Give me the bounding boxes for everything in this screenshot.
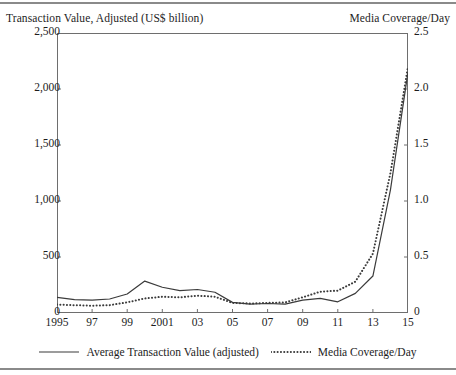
plot-area: 05001,0001,5002,0002,50000.51.01.52.02.5… <box>0 0 456 340</box>
legend-solid-line-icon <box>39 347 79 357</box>
x-axis-tick-label: 09 <box>297 316 309 328</box>
legend-label: Media Coverage/Day <box>318 346 417 358</box>
y-axis-right-tick-label: 2.0 <box>414 81 428 93</box>
legend-dotted-line-icon <box>271 347 311 357</box>
y-axis-left-tick-label: 1,000 <box>34 193 60 205</box>
data-series-line <box>57 72 408 304</box>
y-axis-left-tick-label: 2,000 <box>34 81 60 93</box>
bottom-divider-rule <box>0 368 456 370</box>
y-axis-left-tick-label: 1,500 <box>34 137 60 149</box>
chart-figure: Transaction Value, Adjusted (US$ billion… <box>0 0 456 375</box>
x-axis-tick-label: 97 <box>86 316 98 328</box>
data-series-line <box>57 67 408 306</box>
x-axis-tick-label: 07 <box>262 316 274 328</box>
x-axis-tick-label: 99 <box>121 316 133 328</box>
x-axis-tick-label: 05 <box>227 316 239 328</box>
x-axis-tick-label: 1995 <box>46 316 69 328</box>
x-axis-tick-label: 15 <box>402 316 414 328</box>
y-axis-right-tick-label: 1.0 <box>414 193 428 205</box>
chart-canvas <box>57 33 408 313</box>
legend-item: Media Coverage/Day <box>271 346 417 358</box>
x-axis-tick-label: 13 <box>367 316 379 328</box>
y-axis-right-tick-label: 1.5 <box>414 137 428 149</box>
y-axis-right-tick-label: 0 <box>414 305 420 317</box>
y-axis-right-tick-label: 0.5 <box>414 249 428 261</box>
y-axis-right-tick-label: 2.5 <box>414 25 428 37</box>
y-axis-left-tick-label: 500 <box>43 249 60 261</box>
y-axis-left-tick-label: 2,500 <box>34 25 60 37</box>
x-axis-tick-label: 2001 <box>151 316 174 328</box>
chart-legend: Average Transaction Value (adjusted)Medi… <box>0 346 456 358</box>
x-axis-tick-label: 03 <box>192 316 204 328</box>
x-axis-tick-label: 11 <box>332 316 343 328</box>
legend-label: Average Transaction Value (adjusted) <box>86 346 258 358</box>
legend-item: Average Transaction Value (adjusted) <box>39 346 258 358</box>
